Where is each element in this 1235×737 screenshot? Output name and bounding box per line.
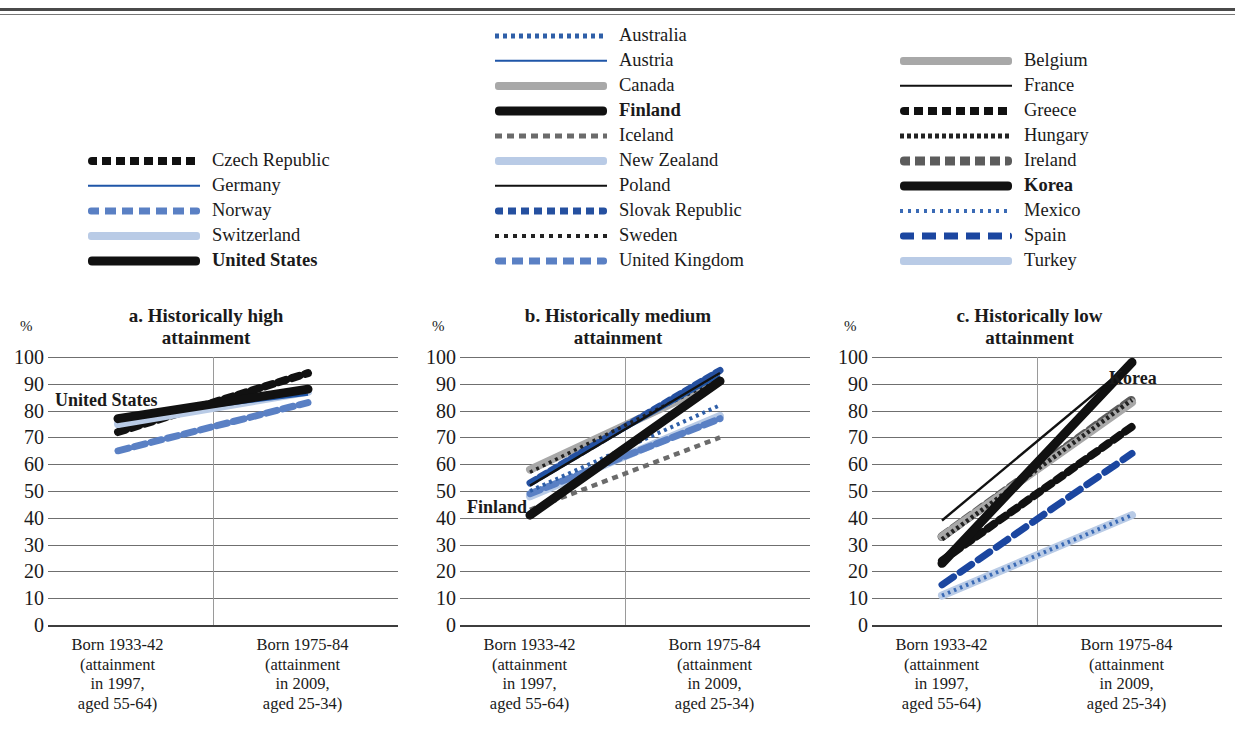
x-axis-label-line: (attainment — [442, 655, 617, 675]
x-axis-label-right: Born 1975-84(attainmentin 2009,aged 25-3… — [627, 635, 802, 713]
x-axis-label-right: Born 1975-84(attainmentin 2009,aged 25-3… — [1039, 635, 1214, 713]
legend-item-iceland[interactable]: Iceland — [495, 123, 744, 148]
legend-item-new-zealand[interactable]: New Zealand — [495, 148, 744, 173]
x-axis-label-line: aged 25-34) — [215, 694, 390, 714]
legend-item-france[interactable]: France — [900, 73, 1089, 98]
series-annotation: Korea — [1109, 368, 1157, 389]
legend-swatch-icon — [88, 154, 200, 168]
legend-column-2: AustraliaAustriaCanadaFinlandIcelandNew … — [495, 23, 744, 273]
legend-swatch-icon — [495, 29, 607, 43]
legend-label: United Kingdom — [619, 251, 744, 270]
legend-label: Sweden — [619, 226, 678, 245]
legend-swatch-icon — [495, 79, 607, 93]
legend-label: Korea — [1024, 176, 1073, 195]
series-line — [942, 427, 1132, 561]
series-annotation: Finland — [467, 497, 527, 518]
legend-label: Austria — [619, 51, 673, 70]
legend-column-3: BelgiumFranceGreeceHungaryIrelandKoreaMe… — [900, 48, 1089, 273]
legend-swatch-icon — [900, 104, 1012, 118]
legend-item-czech-republic[interactable]: Czech Republic — [88, 148, 330, 173]
legend-column-1: Czech RepublicGermanyNorwaySwitzerlandUn… — [88, 148, 330, 273]
legend-item-germany[interactable]: Germany — [88, 173, 330, 198]
x-axis-label-line: aged 55-64) — [30, 694, 205, 714]
x-axis-label-line: (attainment — [854, 655, 1029, 675]
series-line — [530, 381, 720, 515]
legend-label: Australia — [619, 26, 687, 45]
legend-item-hungary[interactable]: Hungary — [900, 123, 1089, 148]
legend-item-spain[interactable]: Spain — [900, 223, 1089, 248]
legend-item-poland[interactable]: Poland — [495, 173, 744, 198]
legend-label: Finland — [619, 101, 681, 120]
top-rule — [0, 8, 1235, 11]
legend-label: Greece — [1024, 101, 1076, 120]
legend-swatch-icon — [88, 229, 200, 243]
legend-swatch-icon — [900, 154, 1012, 168]
legend-label: Spain — [1024, 226, 1066, 245]
legend-label: Iceland — [619, 126, 673, 145]
x-axis-label-line: in 2009, — [627, 674, 802, 694]
legend-label: Turkey — [1024, 251, 1077, 270]
legend-label: Germany — [212, 176, 281, 195]
legend-swatch-icon — [495, 229, 607, 243]
x-axis-label-line: in 2009, — [1039, 674, 1214, 694]
legend-swatch-icon — [900, 179, 1012, 193]
x-axis-label-line: aged 25-34) — [1039, 694, 1214, 714]
x-axis-label-line: Born 1933-42 — [30, 635, 205, 655]
legend-item-turkey[interactable]: Turkey — [900, 248, 1089, 273]
x-axis-label-line: (attainment — [30, 655, 205, 675]
legend-swatch-icon — [495, 154, 607, 168]
x-axis-label-left: Born 1933-42(attainmentin 1997,aged 55-6… — [442, 635, 617, 713]
legend-label: Slovak Republic — [619, 201, 742, 220]
x-axis-label-line: aged 55-64) — [854, 694, 1029, 714]
top-rule-thin — [0, 14, 1235, 15]
legend-swatch-icon — [900, 54, 1012, 68]
legend-label: Canada — [619, 76, 674, 95]
legend-item-korea[interactable]: Korea — [900, 173, 1089, 198]
legend-swatch-icon — [900, 204, 1012, 218]
x-axis-label-line: Born 1975-84 — [1039, 635, 1214, 655]
legend-label: United States — [212, 251, 317, 270]
legend-swatch-icon — [495, 104, 607, 118]
x-axis-label-line: in 2009, — [215, 674, 390, 694]
legend-label: Czech Republic — [212, 151, 330, 170]
legend-item-norway[interactable]: Norway — [88, 198, 330, 223]
series-annotation: United States — [55, 390, 158, 411]
series-line — [942, 362, 1132, 563]
x-axis-label-line: Born 1975-84 — [215, 635, 390, 655]
legend-item-sweden[interactable]: Sweden — [495, 223, 744, 248]
legend-item-united-kingdom[interactable]: United Kingdom — [495, 248, 744, 273]
x-axis-label-line: in 1997, — [854, 674, 1029, 694]
legend-swatch-icon — [900, 79, 1012, 93]
x-axis-label-right: Born 1975-84(attainmentin 2009,aged 25-3… — [215, 635, 390, 713]
legend-label: Mexico — [1024, 201, 1081, 220]
x-axis-label-line: in 1997, — [442, 674, 617, 694]
legend-swatch-icon — [495, 254, 607, 268]
x-axis-label-line: Born 1975-84 — [627, 635, 802, 655]
chart-panel-c: c. Historically lowattainment%1009080706… — [824, 300, 1235, 737]
legend-item-united-states[interactable]: United States — [88, 248, 330, 273]
chart-panel-a: a. Historically highattainment%100908070… — [0, 300, 412, 737]
x-axis-label-line: Born 1933-42 — [442, 635, 617, 655]
legend-item-belgium[interactable]: Belgium — [900, 48, 1089, 73]
legend-swatch-icon — [88, 204, 200, 218]
legend-label: Poland — [619, 176, 670, 195]
legend-item-canada[interactable]: Canada — [495, 73, 744, 98]
legend-swatch-icon — [900, 229, 1012, 243]
x-axis-label-line: aged 25-34) — [627, 694, 802, 714]
legend-label: New Zealand — [619, 151, 718, 170]
x-axis-label-left: Born 1933-42(attainmentin 1997,aged 55-6… — [30, 635, 205, 713]
legend-item-austria[interactable]: Austria — [495, 48, 744, 73]
legend-item-slovak-republic[interactable]: Slovak Republic — [495, 198, 744, 223]
legend-item-finland[interactable]: Finland — [495, 98, 744, 123]
legend-label: Ireland — [1024, 151, 1076, 170]
legend-item-mexico[interactable]: Mexico — [900, 198, 1089, 223]
legend-label: Switzerland — [212, 226, 300, 245]
x-axis-label-line: (attainment — [1039, 655, 1214, 675]
legend-item-greece[interactable]: Greece — [900, 98, 1089, 123]
legend-item-australia[interactable]: Australia — [495, 23, 744, 48]
legend-swatch-icon — [495, 54, 607, 68]
legend-item-ireland[interactable]: Ireland — [900, 148, 1089, 173]
legend-swatch-icon — [88, 179, 200, 193]
legend-item-switzerland[interactable]: Switzerland — [88, 223, 330, 248]
chart-panel-b: b. Historically mediumattainment%1009080… — [412, 300, 824, 737]
